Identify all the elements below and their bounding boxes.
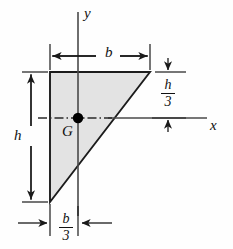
dimension-label-b-over-3: b 3 [57, 212, 75, 243]
dimension-label-h: h [14, 128, 22, 143]
fraction-denominator: 3 [159, 94, 177, 109]
fraction-numerator: h [159, 78, 177, 93]
y-axis-label: y [84, 6, 91, 21]
fraction-numerator: b [57, 212, 75, 227]
x-axis-label: x [210, 118, 217, 133]
centroid-dot [73, 113, 83, 123]
dimension-b [50, 44, 150, 70]
diagram-canvas [0, 0, 233, 249]
dimension-h-label-mask [24, 126, 40, 146]
dimension-label-h-over-3: h 3 [159, 78, 177, 109]
centroid-label: G [62, 124, 73, 139]
fraction-denominator: 3 [57, 228, 75, 243]
dimension-h [22, 72, 48, 202]
centroid-diagram: y x b h G h 3 b 3 [0, 0, 233, 249]
dimension-label-b: b [105, 45, 113, 60]
